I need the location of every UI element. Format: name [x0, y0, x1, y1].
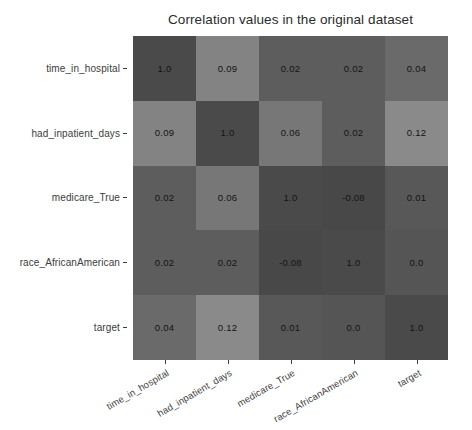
cell-value: 0.01 — [407, 193, 426, 203]
heatmap-cell: 0.02 — [133, 230, 196, 295]
y-tick-label: had_inpatient_days — [31, 128, 120, 139]
cell-value: 0.02 — [344, 128, 363, 138]
y-tick: medicare_True — [0, 166, 127, 231]
heatmap-cell: 0.04 — [385, 36, 448, 101]
heatmap-cell: 0.02 — [322, 101, 385, 166]
cell-value: 0.12 — [407, 128, 426, 138]
cell-value: 0.0 — [347, 323, 361, 333]
heatmap-cell: 1.0 — [259, 166, 322, 231]
cell-value: 1.0 — [158, 64, 172, 74]
heatmap-cell: 0.0 — [322, 295, 385, 360]
cell-value: 0.06 — [218, 193, 237, 203]
cell-value: 0.02 — [155, 258, 174, 268]
heatmap-cell: 0.0 — [385, 230, 448, 295]
x-axis: time_in_hospital had_inpatient_days medi… — [133, 360, 448, 430]
cell-value: 1.0 — [221, 128, 235, 138]
heatmap-cell: 0.02 — [133, 166, 196, 231]
cell-value: 1.0 — [284, 193, 298, 203]
heatmap-cell: 0.01 — [385, 166, 448, 231]
heatmap-cell: 0.01 — [259, 295, 322, 360]
heatmap-cell: 1.0 — [322, 230, 385, 295]
cell-value: 0.01 — [281, 323, 300, 333]
cell-value: 0.04 — [407, 64, 426, 74]
cell-value: 0.06 — [281, 128, 300, 138]
heatmap-grid: 1.0 0.09 0.02 0.02 0.04 0.09 1.0 0.06 0.… — [133, 36, 448, 360]
cell-value: 0.0 — [410, 258, 424, 268]
cell-value: 0.04 — [155, 323, 174, 333]
cell-value: 1.0 — [347, 258, 361, 268]
correlation-heatmap-figure: Correlation values in the original datas… — [0, 0, 472, 430]
heatmap-cell: -0.08 — [259, 230, 322, 295]
heatmap-cell: 1.0 — [133, 36, 196, 101]
cell-value: -0.08 — [279, 258, 302, 268]
y-tick-mark — [123, 197, 127, 198]
cell-value: 1.0 — [410, 323, 424, 333]
heatmap-cell: 0.02 — [196, 230, 259, 295]
cell-value: 0.02 — [344, 64, 363, 74]
heatmap-cell: 0.12 — [196, 295, 259, 360]
x-tick-mark — [165, 360, 166, 364]
heatmap-cell: 0.02 — [259, 36, 322, 101]
x-tick-mark — [228, 360, 229, 364]
cell-value: 0.02 — [218, 258, 237, 268]
y-tick: had_inpatient_days — [0, 101, 127, 166]
chart-title: Correlation values in the original datas… — [133, 12, 448, 27]
y-tick-label: race_AfricanAmerican — [20, 257, 120, 268]
cell-value: 0.12 — [218, 323, 237, 333]
heatmap-cell: 0.04 — [133, 295, 196, 360]
y-tick: race_AfricanAmerican — [0, 230, 127, 295]
y-tick: target — [0, 295, 127, 360]
heatmap-cell: 1.0 — [196, 101, 259, 166]
y-tick-label: time_in_hospital — [46, 63, 120, 74]
heatmap-cell: 0.09 — [133, 101, 196, 166]
heatmap-cell: 0.09 — [196, 36, 259, 101]
cell-value: 0.09 — [218, 64, 237, 74]
cell-value: 0.02 — [155, 193, 174, 203]
heatmap-cell: 1.0 — [385, 295, 448, 360]
cell-value: 0.02 — [281, 64, 300, 74]
y-tick-mark — [123, 262, 127, 263]
x-tick-mark — [417, 360, 418, 364]
y-tick-mark — [123, 133, 127, 134]
y-tick-label: target — [94, 322, 120, 333]
x-tick-mark — [291, 360, 292, 364]
y-axis: time_in_hospital had_inpatient_days medi… — [0, 36, 127, 360]
y-tick: time_in_hospital — [0, 36, 127, 101]
heatmap-cell: 0.06 — [196, 166, 259, 231]
cell-value: 0.09 — [155, 128, 174, 138]
cell-value: -0.08 — [342, 193, 365, 203]
heatmap-cell: 0.12 — [385, 101, 448, 166]
heatmap-cell: 0.06 — [259, 101, 322, 166]
x-tick-mark — [354, 360, 355, 364]
heatmap-cell: -0.08 — [322, 166, 385, 231]
y-tick-mark — [123, 327, 127, 328]
y-tick-label: medicare_True — [52, 192, 120, 203]
y-tick-mark — [123, 68, 127, 69]
heatmap-cell: 0.02 — [322, 36, 385, 101]
